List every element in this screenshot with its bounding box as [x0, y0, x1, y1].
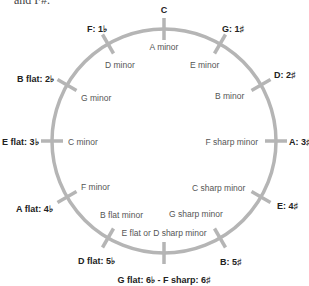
- key-tick: [103, 229, 114, 248]
- minor-key-c: C minor: [68, 137, 98, 147]
- circle-of-fifths-diagram: C G: 1♯ D: 2♯ A: 3♯ E: 4♯ B: 5♯ G flat: …: [0, 0, 309, 286]
- key-tick: [215, 229, 226, 248]
- minor-key-b: B minor: [215, 91, 244, 101]
- major-key-aflat: A flat: 4♭: [16, 204, 53, 214]
- major-key-e: E: 4♯: [277, 201, 299, 211]
- minor-key-csharp: C sharp minor: [192, 183, 246, 193]
- major-key-dflat: D flat: 5♭: [78, 256, 115, 266]
- major-key-eflat: E flat: 3♭: [2, 137, 39, 147]
- minor-key-e: E minor: [190, 60, 219, 70]
- minor-key-a: A minor: [150, 42, 179, 52]
- major-key-bflat: B flat: 2♭: [17, 74, 54, 84]
- key-tick: [58, 80, 77, 91]
- major-key-a: A: 3♯: [289, 137, 309, 147]
- minor-key-gsharp: G sharp minor: [169, 209, 223, 219]
- minor-key-f: F minor: [81, 182, 110, 192]
- major-key-gflat-fsharp: G flat: 6♭ - F sharp: 6♯: [117, 275, 211, 285]
- major-key-d: D: 2♯: [274, 70, 296, 80]
- key-tick: [58, 192, 77, 203]
- key-tick: [103, 35, 114, 54]
- major-key-b: B: 5♯: [220, 257, 242, 267]
- major-key-g: G: 1♯: [222, 24, 245, 34]
- key-tick: [215, 35, 226, 54]
- key-tick: [252, 192, 271, 203]
- major-key-c: C: [161, 5, 168, 15]
- minor-key-g: G minor: [81, 93, 111, 103]
- key-tick: [252, 80, 271, 91]
- minor-key-d: D minor: [105, 60, 135, 70]
- minor-key-fsharp: F sharp minor: [206, 137, 259, 147]
- minor-key-bflat: B flat minor: [100, 210, 143, 220]
- major-key-f: F: 1♭: [87, 24, 107, 34]
- minor-key-eflat-dsharp: E flat or D sharp minor: [121, 228, 206, 238]
